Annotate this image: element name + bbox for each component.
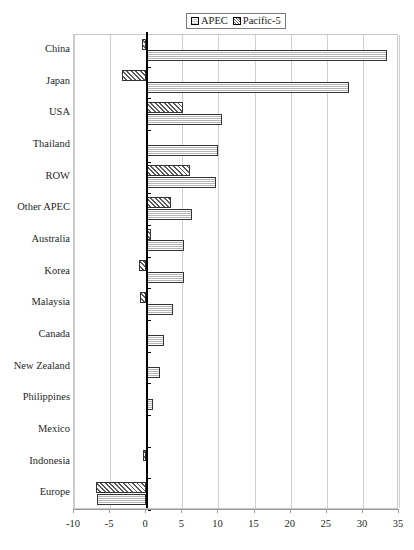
axis-minor-tick (148, 67, 151, 68)
y-axis-label-usa: USA (2, 107, 70, 118)
axis-minor-tick (148, 257, 151, 258)
x-axis-tick-label: -10 (58, 518, 88, 529)
bar-apec (97, 494, 146, 505)
bar-pacific-5 (96, 482, 147, 493)
x-axis-tick-label: 35 (383, 518, 413, 529)
y-axis-label-japan: Japan (2, 76, 70, 87)
axis-minor-tick (148, 98, 151, 99)
bar-group (74, 67, 397, 99)
bar-apec (146, 177, 216, 188)
bar-group (74, 447, 397, 479)
bar-group (74, 98, 397, 130)
bar-apec (146, 367, 160, 378)
x-axis-tick-label: 20 (275, 518, 305, 529)
x-axis-tick (145, 509, 146, 513)
y-axis-label-indonesia: Indonesia (2, 456, 70, 467)
bar-group (74, 288, 397, 320)
y-axis-label-canada: Canada (2, 329, 70, 340)
bar-pacific-5 (146, 102, 183, 113)
axis-minor-tick (148, 510, 151, 511)
bar-group (74, 415, 397, 447)
axis-minor-tick (148, 130, 151, 131)
x-axis-tick (326, 509, 327, 513)
x-axis-tick (109, 509, 110, 513)
y-axis-labels: ChinaJapanUSAThailandROWOther APECAustra… (0, 34, 70, 509)
bar-group (74, 193, 397, 225)
axis-minor-tick (148, 320, 151, 321)
bar-apec (146, 272, 184, 283)
axis-minor-tick (148, 415, 151, 416)
x-axis-tick (362, 509, 363, 513)
x-axis-tick (181, 509, 182, 513)
y-axis-label-mexico: Mexico (2, 424, 70, 435)
x-axis-tick (254, 509, 255, 513)
bar-pacific-5 (122, 70, 146, 81)
x-axis-tick-label: 5 (166, 518, 196, 529)
y-axis-label-thailand: Thailand (2, 139, 70, 150)
x-axis-tick (398, 509, 399, 513)
bar-pacific-5 (146, 197, 171, 208)
x-axis-tick-label: 25 (311, 518, 341, 529)
bar-group (74, 130, 397, 162)
x-axis-tick-label: 10 (202, 518, 232, 529)
y-axis-label-europe: Europe (2, 487, 70, 498)
x-axis-line (73, 509, 398, 510)
bar-group (74, 320, 397, 352)
bar-apec (146, 209, 192, 220)
y-axis-label-australia: Australia (2, 234, 70, 245)
bar-group (74, 35, 397, 67)
bar-group (74, 162, 397, 194)
bar-apec (146, 145, 218, 156)
bar-apec (146, 240, 184, 251)
bar-group (74, 383, 397, 415)
zero-axis-line (146, 32, 148, 508)
axis-minor-tick (148, 225, 151, 226)
bar-pacific-5 (139, 260, 146, 271)
legend-swatch-pacific-5-icon (233, 17, 241, 25)
x-axis-tick (73, 509, 74, 513)
x-axis-tick-label: 30 (347, 518, 377, 529)
x-axis-tick-label: -5 (94, 518, 124, 529)
bar-group (74, 478, 397, 510)
x-axis-tick (290, 509, 291, 513)
x-axis-tick-label: 15 (239, 518, 269, 529)
legend-entry-apec: APEC (191, 16, 228, 27)
bar-group (74, 352, 397, 384)
legend-entry-pacific-5: Pacific-5 (233, 16, 281, 27)
axis-minor-tick (148, 193, 151, 194)
y-axis-label-new-zealand: New Zealand (2, 361, 70, 372)
bar-apec (146, 335, 163, 346)
y-axis-label-other-apec: Other APEC (2, 202, 70, 213)
y-axis-label-row: ROW (2, 171, 70, 182)
gridline (399, 35, 400, 508)
axis-minor-tick (148, 352, 151, 353)
chart-legend: APEC Pacific-5 (186, 13, 286, 29)
axis-minor-tick (148, 478, 151, 479)
x-axis-tick (217, 509, 218, 513)
axis-minor-tick (148, 162, 151, 163)
bar-apec (146, 114, 222, 125)
legend-label-pacific-5: Pacific-5 (243, 16, 281, 27)
y-axis-label-philippines: Philippines (2, 392, 70, 403)
axis-minor-tick (148, 383, 151, 384)
bar-apec (146, 50, 387, 61)
plot-area (73, 34, 398, 509)
legend-swatch-apec-icon (191, 17, 199, 25)
y-axis-label-malaysia: Malaysia (2, 297, 70, 308)
bar-group (74, 257, 397, 289)
y-axis-label-china: China (2, 44, 70, 55)
bar-apec (146, 82, 349, 93)
bar-pacific-5 (146, 165, 189, 176)
axis-minor-tick (148, 288, 151, 289)
y-axis-label-korea: Korea (2, 266, 70, 277)
bar-chart: APEC Pacific-5 ChinaJapanUSAThailandROWO… (0, 0, 414, 550)
x-axis-tick-label: 0 (130, 518, 160, 529)
bar-apec (146, 304, 173, 315)
legend-label-apec: APEC (201, 16, 228, 27)
bar-group (74, 225, 397, 257)
axis-minor-tick (148, 447, 151, 448)
